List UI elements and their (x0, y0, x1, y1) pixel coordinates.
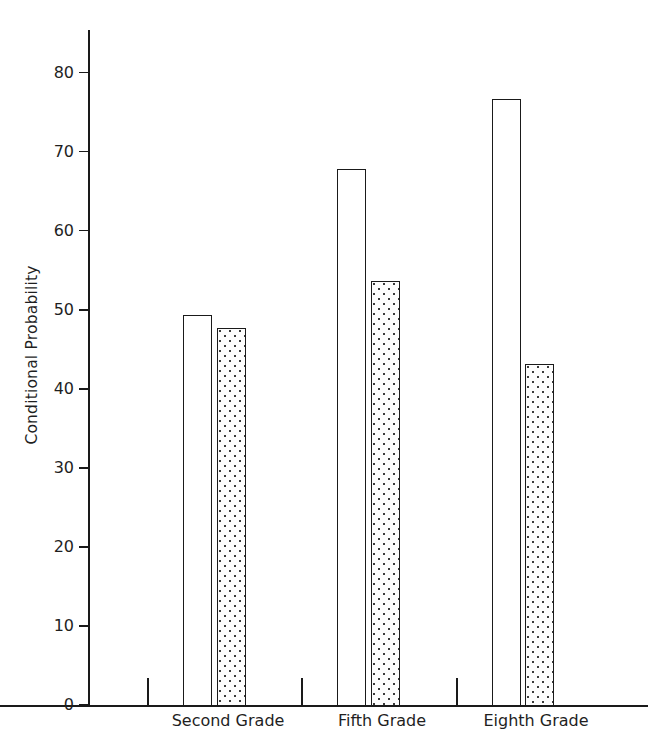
bar-open-bar-second-grade (183, 315, 212, 705)
x-tick-2 (456, 678, 458, 706)
y-tick-label-wrap: 10 (34, 618, 74, 634)
y-tick-10 (79, 625, 89, 627)
y-tick-label-wrap: 30 (34, 460, 74, 476)
x-axis-label-2: Eighth Grade (446, 712, 626, 730)
y-tick-30 (79, 467, 89, 469)
y-tick-40 (79, 388, 89, 390)
y-tick-label: 70 (34, 144, 74, 160)
y-tick-label: 80 (34, 65, 74, 81)
y-tick-80 (79, 72, 89, 74)
x-axis-line (0, 705, 648, 707)
y-tick-label: 0 (34, 697, 74, 713)
y-tick-label-wrap: 0 (34, 697, 74, 713)
bar-open-bar-eighth-grade (492, 99, 521, 705)
x-tick-0 (147, 678, 149, 706)
y-axis-line (88, 30, 90, 706)
bar-stippled-bar-fifth-grade (371, 281, 400, 705)
y-tick-label: 30 (34, 460, 74, 476)
y-tick-label-wrap: 80 (34, 65, 74, 81)
y-tick-label: 60 (34, 223, 74, 239)
y-tick-0 (79, 704, 89, 706)
y-tick-label-wrap: 70 (34, 144, 74, 160)
y-tick-label: 40 (34, 381, 74, 397)
y-tick-label: 50 (34, 302, 74, 318)
y-tick-70 (79, 151, 89, 153)
x-axis-label-1: Fifth Grade (292, 712, 472, 730)
y-tick-label-wrap: 50 (34, 302, 74, 318)
bar-stippled-bar-eighth-grade (525, 364, 554, 705)
bar-stippled-bar-second-grade (217, 328, 246, 705)
y-tick-60 (79, 230, 89, 232)
x-tick-1 (301, 678, 303, 706)
y-tick-label: 20 (34, 539, 74, 555)
chart-figure: Conditional Probability 0102030405060708… (0, 0, 656, 746)
y-tick-label-wrap: 40 (34, 381, 74, 397)
y-tick-label-wrap: 20 (34, 539, 74, 555)
y-tick-20 (79, 546, 89, 548)
y-tick-label: 10 (34, 618, 74, 634)
y-axis-label: Conditional Probability (23, 265, 41, 444)
y-tick-label-wrap: 60 (34, 223, 74, 239)
x-axis-label-0: Second Grade (138, 712, 318, 730)
bar-open-bar-fifth-grade (337, 169, 366, 705)
y-tick-50 (79, 309, 89, 311)
